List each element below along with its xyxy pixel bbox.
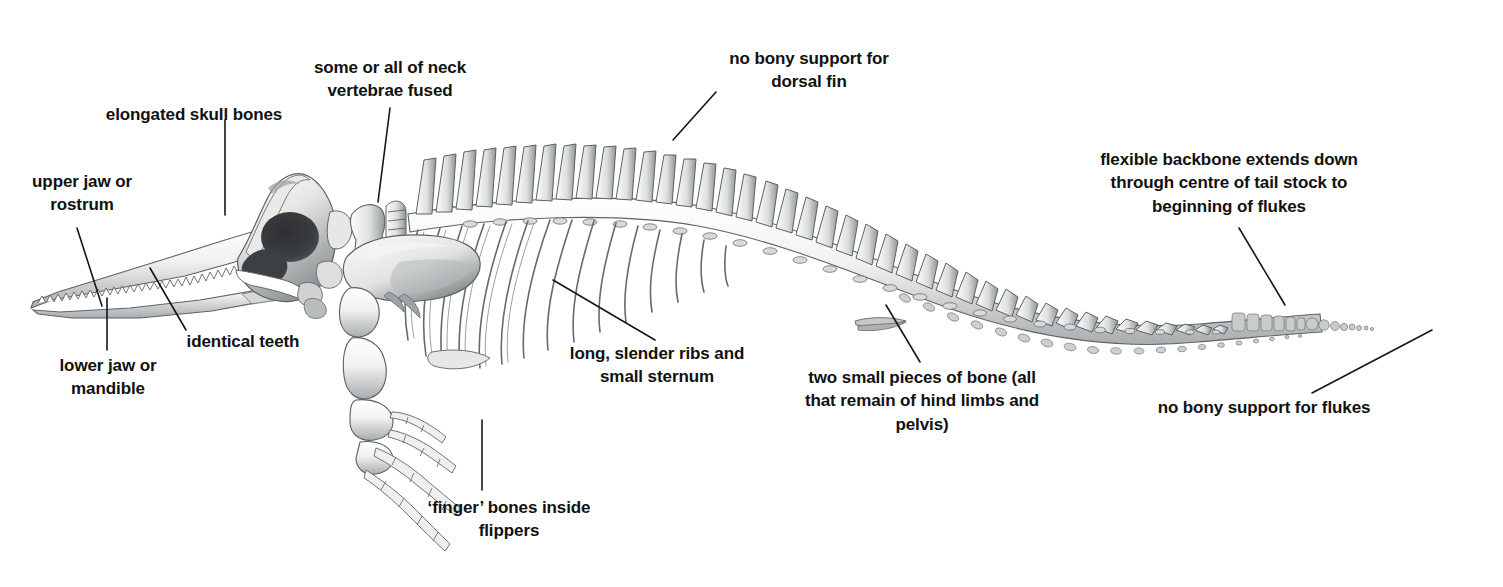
rib	[725, 246, 728, 286]
label-flexible-backbone: flexible backbone extends down through c…	[1076, 148, 1382, 218]
sternum-bone	[428, 350, 490, 369]
label-no-bony-support-dorsal-fin: no bony support for dorsal fin	[702, 47, 916, 94]
label-neck-vertebrae-fused: some or all of neck vertebrae fused	[290, 56, 490, 103]
leader-hind-limbs	[886, 305, 920, 362]
rib	[625, 226, 638, 322]
leader-flukes	[1312, 330, 1432, 393]
carpal-bones	[350, 400, 393, 441]
rib	[573, 221, 594, 342]
label-identical-teeth: identical teeth	[163, 330, 323, 353]
humerus-bone	[339, 288, 379, 337]
paroccipital-process	[304, 298, 326, 318]
rib	[523, 220, 550, 358]
label-hind-limbs-pelvis: two small pieces of bone (all that remai…	[778, 366, 1066, 436]
occipital-condyle	[316, 261, 342, 288]
rib	[650, 230, 660, 312]
label-upper-jaw: upper jaw or rostrum	[8, 170, 156, 217]
rib	[676, 234, 682, 302]
leader-flexible-backbone	[1239, 228, 1285, 305]
label-lower-jaw: lower jaw or mandible	[33, 354, 183, 401]
leader-dorsal-fin	[673, 92, 716, 140]
label-ribs-and-sternum: long, slender ribs and small sternum	[546, 342, 768, 389]
leader-ribs-sternum	[553, 280, 655, 340]
label-elongated-skull-bones: elongated skull bones	[85, 103, 303, 126]
leader-neck-vertebrae	[378, 108, 390, 202]
skull-posterior-edge	[327, 211, 352, 249]
vestigial-pelvis-group	[855, 318, 906, 331]
rib	[547, 220, 572, 350]
radius-ulna-bone	[343, 338, 386, 399]
label-no-bony-support-flukes: no bony support for flukes	[1131, 396, 1397, 419]
figure-canvas: upper jaw or rostrum lower jaw or mandib…	[0, 0, 1503, 587]
rib	[701, 240, 704, 292]
label-finger-bones-flippers: ‘finger’ bones inside flippers	[395, 496, 623, 543]
